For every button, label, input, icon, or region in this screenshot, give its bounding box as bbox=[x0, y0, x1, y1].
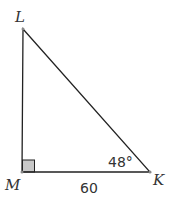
vertex-k-label: K bbox=[152, 171, 165, 189]
vertex-m-point bbox=[21, 171, 24, 174]
vertex-l-label: L bbox=[14, 8, 25, 26]
vertex-m-label: M bbox=[4, 176, 21, 194]
right-angle-marker bbox=[23, 160, 35, 172]
vertex-l-point bbox=[22, 28, 25, 31]
side-mk-length: 60 bbox=[80, 180, 98, 196]
triangle-lmk bbox=[22, 29, 150, 172]
triangle-diagram: L M K 60 48° bbox=[0, 0, 171, 202]
vertex-k-point bbox=[149, 171, 152, 174]
angle-k-measure: 48° bbox=[108, 154, 133, 170]
